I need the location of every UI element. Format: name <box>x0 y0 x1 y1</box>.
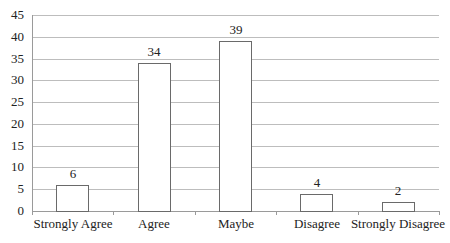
y-tick-label: 45 <box>2 8 24 21</box>
bar-disagree <box>300 194 333 212</box>
x-tick <box>113 211 114 215</box>
x-tick <box>32 211 33 215</box>
data-label: 6 <box>53 167 93 180</box>
x-category-label: Strongly Disagree <box>343 217 450 231</box>
y-tick-label: 40 <box>2 30 24 43</box>
y-tick-label: 30 <box>2 73 24 86</box>
x-tick <box>439 211 440 215</box>
x-tick <box>358 211 359 215</box>
gridline <box>32 37 439 38</box>
y-tick-label: 35 <box>2 52 24 65</box>
data-label: 34 <box>134 45 174 58</box>
x-tick <box>195 211 196 215</box>
data-label: 4 <box>297 176 337 189</box>
y-tick-label: 5 <box>2 182 24 195</box>
y-tick-label: 25 <box>2 95 24 108</box>
bar-maybe <box>219 41 252 212</box>
bar-agree <box>138 63 171 212</box>
bar-strongly-agree <box>56 185 89 212</box>
data-label: 2 <box>378 184 418 197</box>
data-label: 39 <box>216 23 256 36</box>
y-tick-label: 0 <box>2 204 24 217</box>
gridline <box>32 15 439 16</box>
bar-chart: 051015202530354045 6343942 Strongly Agre… <box>0 0 450 243</box>
y-axis <box>32 15 33 212</box>
y-tick-label: 10 <box>2 160 24 173</box>
y-tick-label: 15 <box>2 139 24 152</box>
y-tick-label: 20 <box>2 117 24 130</box>
bar-strongly-disagree <box>382 202 415 212</box>
x-tick <box>276 211 277 215</box>
